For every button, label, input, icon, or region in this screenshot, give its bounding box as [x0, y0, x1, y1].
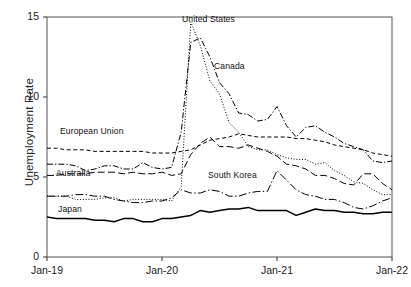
series-label-south-korea: South Korea	[208, 170, 257, 180]
series-label-canada: Canada	[214, 61, 245, 71]
series-line-european-union	[47, 134, 392, 156]
series-label-united-states: United States	[182, 14, 235, 24]
x-tick-jan-22: Jan-22	[362, 264, 411, 276]
series-label-japan: Japan	[58, 204, 82, 214]
x-tick-jan-20: Jan-20	[132, 264, 192, 276]
series-line-canada	[47, 38, 392, 171]
series-line-japan	[47, 207, 392, 221]
y-tick-5: 5	[13, 170, 39, 182]
unemployment-rate-chart: Unemployment Rate 051015 Jan-19Jan-20Jan…	[0, 0, 411, 287]
plot-frame	[47, 17, 392, 257]
series-label-australia: Australia	[56, 168, 90, 178]
y-tick-0: 0	[13, 250, 39, 262]
x-tick-jan-21: Jan-21	[247, 264, 307, 276]
plot-canvas	[0, 0, 411, 287]
y-tick-15: 15	[13, 10, 39, 22]
x-tick-jan-19: Jan-19	[17, 264, 77, 276]
y-axis-title: Unemployment Rate	[23, 37, 35, 227]
series-label-european-union: European Union	[60, 126, 124, 136]
series-line-australia	[47, 137, 392, 190]
series-lines	[47, 22, 392, 222]
y-tick-10: 10	[13, 90, 39, 102]
